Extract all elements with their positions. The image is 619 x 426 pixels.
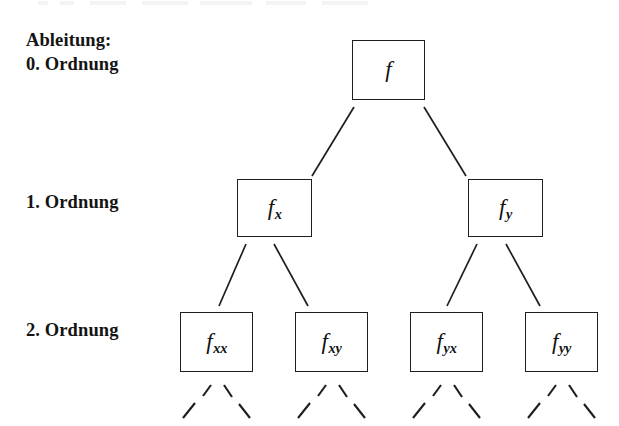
- level-0-row-label: Ableitung: 0. Ordnung: [26, 28, 119, 77]
- node-f-xx-label: fxx: [206, 330, 227, 353]
- level-0-label-text: 0. Ordnung: [26, 52, 119, 76]
- node-f-xy: fxy: [295, 312, 368, 372]
- node-f-x-label: fx: [268, 196, 282, 219]
- scan-artifact: [38, 1, 368, 5]
- node-f-yx-label: fyx: [437, 330, 457, 353]
- node-f-x: fx: [237, 179, 312, 237]
- level-1-row-label: 1. Ordnung: [26, 190, 119, 214]
- node-f-label: f: [385, 58, 392, 81]
- stub-fxx-left-b: [183, 403, 195, 418]
- edge-fy-to-fyy: [506, 244, 540, 306]
- node-f-yy: fyy: [525, 312, 598, 372]
- stub-fxx-right-a: [224, 385, 232, 397]
- stub-fxy-left-a: [318, 385, 326, 396]
- stub-fyx-right-a: [454, 385, 462, 397]
- stub-fyy-left-b: [528, 403, 540, 418]
- stub-fxx-right-b: [239, 404, 250, 418]
- stub-fyx-left-a: [433, 385, 441, 396]
- stub-fyx-left-b: [413, 403, 425, 418]
- derivative-tree-diagram: Ableitung: 0. Ordnung 1. Ordnung 2. Ordn…: [0, 0, 619, 426]
- stub-fyy-right-a: [569, 385, 577, 397]
- stub-fxx-left-a: [203, 385, 211, 396]
- node-f-xx: fxx: [180, 312, 253, 372]
- diagram-title: Ableitung:: [26, 28, 119, 52]
- node-f: f: [352, 40, 425, 100]
- edge-fy-to-fyx: [447, 244, 477, 306]
- edge-f-to-fy: [424, 107, 466, 176]
- level-2-row-label: 2. Ordnung: [26, 318, 119, 342]
- edge-fx-to-fxy: [274, 244, 308, 306]
- node-f-y: fy: [468, 179, 543, 237]
- stub-fxy-left-b: [298, 403, 310, 418]
- node-f-y-label: fy: [499, 196, 512, 219]
- stub-fyx-right-b: [469, 404, 480, 418]
- stub-fyy-left-a: [548, 385, 556, 396]
- stub-fxy-right-b: [354, 404, 365, 418]
- stub-fxy-right-a: [339, 385, 347, 397]
- node-f-yy-label: fyy: [552, 330, 571, 353]
- edge-fx-to-fxx: [219, 244, 246, 306]
- node-f-yx: fyx: [410, 312, 483, 372]
- edge-f-to-fx: [312, 107, 354, 176]
- node-f-xy-label: fxy: [322, 330, 342, 353]
- stub-fyy-right-b: [584, 404, 595, 418]
